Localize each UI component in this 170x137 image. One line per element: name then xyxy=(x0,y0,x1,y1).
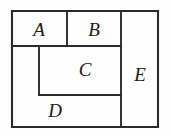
region-b-label: B xyxy=(88,19,100,40)
partition-diagram-svg: A B C D E xyxy=(0,0,170,137)
region-a-label: A xyxy=(31,19,45,40)
region-e-label: E xyxy=(133,64,146,85)
region-c-label: C xyxy=(79,59,92,80)
region-d-label: D xyxy=(47,100,62,121)
rectangle-partition-figure: A B C D E xyxy=(0,0,170,137)
